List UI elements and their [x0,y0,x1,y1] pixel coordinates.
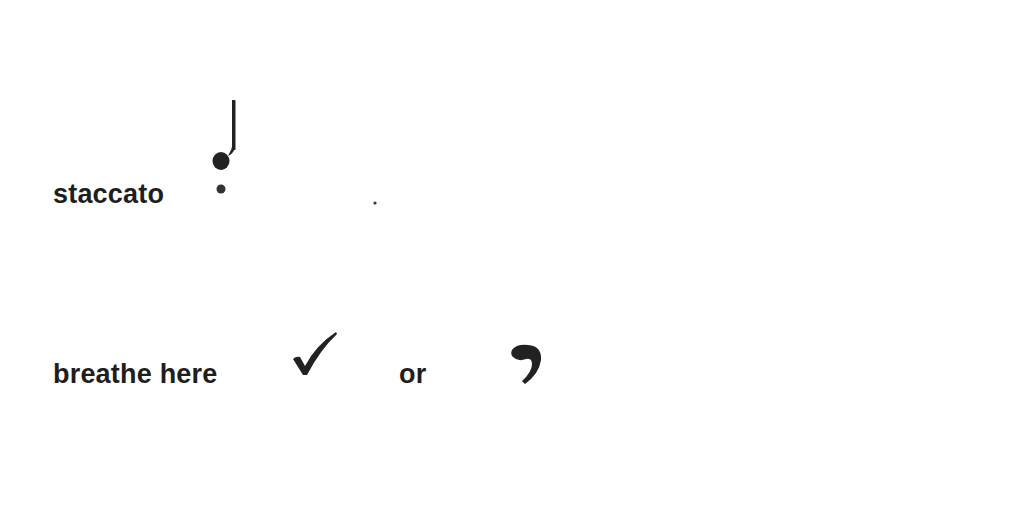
connector-or: or [399,361,426,388]
term-label-staccato: staccato [53,181,164,208]
staccato-quarter-note-icon [206,96,246,200]
term-label-breathe-here: breathe here [53,361,217,388]
staccato-dot-icon [372,200,378,206]
comma-breath-mark-icon [508,342,548,386]
checkmark-breath-mark-icon [290,330,340,378]
